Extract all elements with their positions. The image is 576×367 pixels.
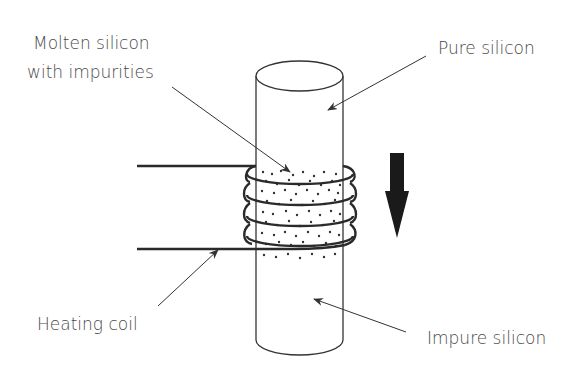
label-pure-silicon: Pure silicon [438,38,535,58]
leader-heating-coil [158,250,218,306]
leader-impure [314,299,406,332]
rod-top-ellipse [256,61,343,91]
zone-refining-diagram: Molten silicon with impurities Pure sili… [0,0,576,367]
leader-molten [172,87,290,172]
label-molten-line2: with impurities [27,62,154,82]
label-heating-coil: Heating coil [37,314,138,334]
label-impure-silicon: Impure silicon [427,328,546,348]
rod-bottom-curve [256,340,343,355]
heating-coil [137,166,356,249]
downward-arrow-icon [385,153,409,238]
silicon-rod [256,61,343,355]
label-molten-line1: Molten silicon [33,33,150,53]
